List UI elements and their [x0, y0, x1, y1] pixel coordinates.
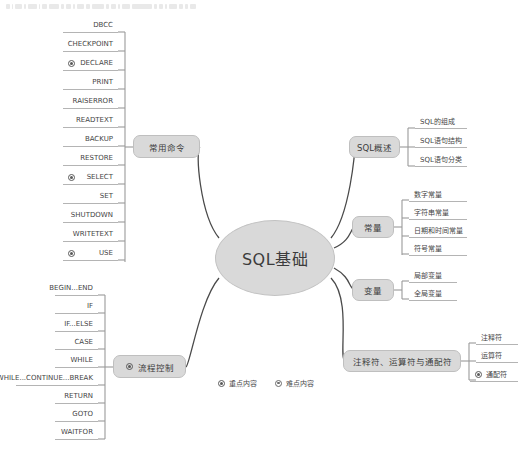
legend-label: 重点内容 [229, 378, 257, 388]
leaf-label: IF...ELSE [64, 320, 93, 328]
leaf-sql-zucheng[interactable]: SQL的组成 [415, 115, 467, 129]
leaf-label: BEGIN...END [49, 284, 93, 292]
leaf-jubu-bianliang[interactable]: 局部变量 [409, 269, 457, 283]
leaf-label: 全局变量 [414, 288, 442, 298]
leaf-label: DECLARE [80, 59, 113, 67]
leaf-label: 注释符 [481, 332, 502, 342]
leaf-label: PRINT [92, 78, 113, 86]
branch-label: 常量 [364, 221, 382, 233]
leaf-label: SQL的组成 [420, 116, 455, 126]
leaf-label: 符号常量 [414, 243, 442, 253]
central-node[interactable]: SQL基础 [215, 220, 335, 296]
leaf-label: CASE [74, 338, 93, 346]
leaf-begin-end[interactable]: BEGIN...END [55, 282, 98, 296]
leaf-if[interactable]: IF [55, 300, 98, 314]
key-point-icon [126, 363, 133, 370]
leaf-label: 日期和时间常量 [414, 225, 463, 235]
leaf-sql-yuju-fenlei[interactable]: SQL语句分类 [415, 153, 467, 167]
key-point-icon [68, 250, 75, 257]
branch-label: 流程控制 [138, 361, 174, 373]
branch-node-bianliang[interactable]: 变量 [352, 279, 394, 301]
branch-label: 变量 [364, 284, 382, 296]
branch-node-liucheng-kongzhi[interactable]: 流程控制 [113, 355, 186, 378]
branch-node-changliang[interactable]: 常量 [352, 216, 394, 238]
leaf-riqi-shijian-changliang[interactable]: 日期和时间常量 [409, 224, 467, 238]
legend-label: 难点内容 [286, 378, 314, 388]
leaf-label: GOTO [72, 410, 93, 418]
leaf-label: DBCC [93, 21, 113, 29]
legend-item-hard-point: 难点内容 [275, 378, 314, 388]
leaf-label: 通配符 [486, 369, 507, 379]
leaf-zifuchuan-changliang[interactable]: 字符串常量 [409, 206, 467, 220]
leaf-label: BACKUP [85, 135, 113, 143]
leaf-label: IF [87, 302, 93, 310]
leaf-case[interactable]: CASE [55, 336, 98, 350]
legend: 重点内容 难点内容 [218, 378, 314, 388]
leaf-label: WHILE...CONTINUE...BREAK [0, 374, 93, 382]
leaf-raiserror[interactable]: RAISERROR [63, 95, 118, 109]
leaf-dbcc[interactable]: DBCC [63, 19, 118, 33]
key-point-icon [68, 174, 75, 181]
leaf-print[interactable]: PRINT [63, 76, 118, 90]
leaf-backup[interactable]: BACKUP [63, 133, 118, 147]
leaf-zhushifu[interactable]: 注释符 [476, 331, 518, 345]
leaf-label: RETURN [64, 392, 93, 400]
leaf-sql-yuju-jiegou[interactable]: SQL语句结构 [415, 134, 467, 148]
leaf-yunsuanfu[interactable]: 运算符 [476, 349, 518, 363]
leaf-fuhao-changliang[interactable]: 符号常量 [409, 242, 467, 256]
leaf-label: 运算符 [481, 350, 502, 360]
leaf-quanju-bianliang[interactable]: 全局变量 [409, 287, 457, 301]
leaf-label: WRITETEXT [73, 230, 113, 238]
branch-label: 常用命令 [149, 141, 185, 153]
leaf-label: SHUTDOWN [71, 211, 113, 219]
leaf-goto[interactable]: GOTO [55, 408, 98, 422]
leaf-if-else[interactable]: IF...ELSE [55, 318, 98, 332]
leaf-shuzi-changliang[interactable]: 数字常量 [409, 188, 467, 202]
top-ruler-strip [6, 2, 196, 11]
leaf-restore[interactable]: RESTORE [63, 152, 118, 166]
leaf-label: SQL语句分类 [420, 154, 462, 164]
branch-node-fuhao[interactable]: 注释符、运算符与通配符 [343, 350, 461, 372]
leaf-label: 数字常量 [414, 189, 442, 199]
leaf-select[interactable]: SELECT [63, 171, 118, 185]
leaf-label: SQL语句结构 [420, 135, 462, 145]
leaf-label: RESTORE [80, 154, 113, 162]
key-point-icon [68, 60, 75, 67]
leaf-declare[interactable]: DECLARE [63, 57, 118, 71]
leaf-tongpeifu[interactable]: 通配符 [470, 368, 518, 382]
branch-node-changyong-mingling[interactable]: 常用命令 [133, 135, 200, 158]
leaf-label: SET [100, 192, 113, 200]
leaf-label: WAITFOR [61, 428, 93, 436]
central-node-label: SQL基础 [242, 246, 308, 270]
leaf-waitfor[interactable]: WAITFOR [55, 426, 98, 440]
key-point-icon [218, 380, 225, 387]
leaf-while-continue-break[interactable]: WHILE...CONTINUE...BREAK [16, 372, 98, 386]
mindmap-canvas: SQL基础 常用命令 流程控制 SQL概述 常量 变量 注释符、运算符与通配符 … [0, 0, 530, 470]
leaf-label: USE [99, 249, 113, 257]
leaf-checkpoint[interactable]: CHECKPOINT [63, 38, 118, 52]
leaf-use[interactable]: USE [63, 247, 118, 261]
key-point-icon [475, 371, 482, 378]
branch-node-sql-gaishu[interactable]: SQL概述 [349, 136, 400, 158]
legend-item-key-point: 重点内容 [218, 378, 257, 388]
leaf-label: SELECT [87, 173, 113, 181]
leaf-set[interactable]: SET [63, 190, 118, 204]
leaf-readtext[interactable]: READTEXT [63, 114, 118, 128]
leaf-return[interactable]: RETURN [55, 390, 98, 404]
branch-label: SQL概述 [357, 141, 392, 153]
leaf-label: 局部变量 [414, 270, 442, 280]
leaf-shutdown[interactable]: SHUTDOWN [63, 209, 118, 223]
leaf-label: WHILE [70, 356, 93, 364]
leaf-writetext[interactable]: WRITETEXT [63, 228, 118, 242]
leaf-label: CHECKPOINT [68, 40, 113, 48]
hard-point-icon [275, 380, 282, 387]
leaf-label: 字符串常量 [414, 207, 449, 217]
leaf-while[interactable]: WHILE [55, 354, 98, 368]
leaf-label: READTEXT [76, 116, 113, 124]
leaf-label: RAISERROR [73, 97, 113, 105]
branch-label: 注释符、运算符与通配符 [353, 355, 452, 367]
